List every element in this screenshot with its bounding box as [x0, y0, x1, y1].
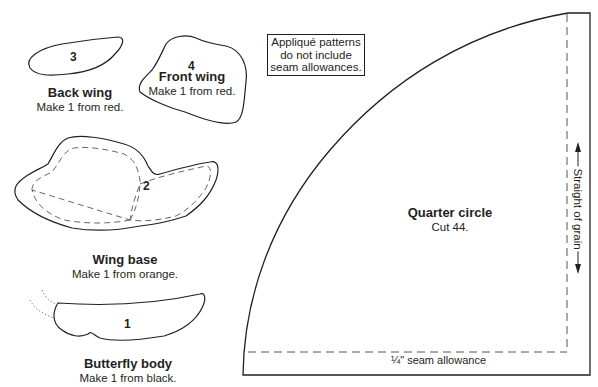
front-wing-label: Front wing Make 1 from red. [146, 70, 238, 97]
back-wing-instruction: Make 1 from red. [35, 101, 125, 114]
quarter-circle-label: Quarter circle Cut 44. [400, 206, 500, 233]
back-wing-label: Back wing Make 1 from red. [35, 86, 125, 113]
wing-base-inner-dashed [32, 147, 211, 223]
piece-number-1: 1 [124, 317, 131, 331]
front-wing-instruction: Make 1 from red. [146, 85, 238, 98]
butterfly-body-title: Butterfly body [72, 357, 184, 372]
piece-number-2: 2 [143, 179, 150, 193]
grain-arrow-down-icon [575, 264, 581, 274]
grain-arrow-up-icon [575, 142, 581, 152]
straight-of-grain-label: Straight of grain [572, 166, 584, 251]
note-line-3: seam allowances. [270, 61, 362, 74]
seam-allowance-label: ¼" seam allowance [391, 354, 486, 366]
quarter-circle-instruction: Cut 44. [400, 221, 500, 234]
front-wing-title: Front wing [146, 70, 238, 85]
wing-base-instruction: Make 1 from orange. [65, 268, 185, 281]
piece-number-3: 3 [70, 50, 77, 64]
note-line-1: Appliqué patterns [270, 36, 362, 49]
seam-allowance-note: Appliqué patterns do not include seam al… [267, 34, 365, 76]
quarter-circle-title: Quarter circle [400, 206, 500, 221]
wing-base-title: Wing base [65, 253, 185, 268]
back-wing-title: Back wing [35, 86, 125, 101]
wing-base-label: Wing base Make 1 from orange. [65, 253, 185, 280]
note-line-2: do not include [270, 49, 362, 62]
butterfly-body-label: Butterfly body Make 1 from black. [72, 357, 184, 384]
butterfly-body-instruction: Make 1 from black. [72, 372, 184, 385]
